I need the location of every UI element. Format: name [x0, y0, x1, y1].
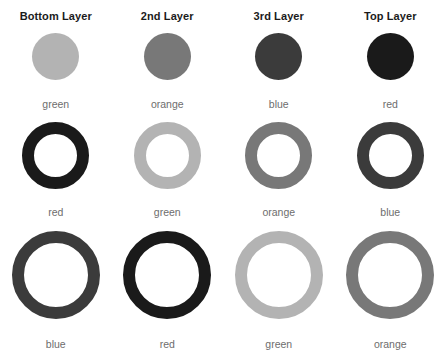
- column-header-top-layer: Top Layer: [335, 9, 446, 27]
- shape-label: red: [383, 98, 398, 110]
- shape-slot: [245, 120, 312, 191]
- shape-slot: [357, 120, 424, 191]
- shape-slot: [22, 120, 89, 191]
- column-header-2nd-layer: 2nd Layer: [112, 9, 224, 27]
- shape-label: red: [160, 338, 175, 350]
- shape-slot: [123, 228, 211, 321]
- shape-label: blue: [46, 338, 66, 350]
- shape-cell: green: [0, 28, 112, 116]
- ring-shape: [134, 122, 201, 189]
- shape-row-3: blue red green orange: [0, 228, 446, 352]
- shape-cell: green: [223, 228, 335, 352]
- shape-cell: red: [112, 228, 224, 352]
- shape-slot: [346, 228, 434, 321]
- shape-cell: red: [0, 120, 112, 218]
- column-header-row: Bottom Layer 2nd Layer 3rd Layer Top Lay…: [0, 9, 446, 27]
- shape-slot: [134, 120, 201, 191]
- shape-cell: green: [112, 120, 224, 218]
- shape-slot: [255, 28, 302, 84]
- shape-label: orange: [262, 206, 295, 218]
- shape-label: red: [48, 206, 63, 218]
- ring-shape: [12, 231, 100, 319]
- shape-row-1: green orange blue red: [0, 28, 446, 116]
- column-header-bottom-layer: Bottom Layer: [0, 9, 112, 27]
- shape-cell: blue: [335, 120, 446, 218]
- shape-label: blue: [269, 98, 289, 110]
- shape-row-2: red green orange blue: [0, 120, 446, 218]
- ring-shape: [346, 231, 434, 319]
- ring-shape: [245, 122, 312, 189]
- ring-shape: [357, 122, 424, 189]
- shape-label: green: [154, 206, 181, 218]
- disc-shape: [144, 33, 191, 80]
- shape-cell: orange: [112, 28, 224, 116]
- shape-slot: [367, 28, 414, 84]
- shape-label: green: [265, 338, 292, 350]
- shape-cell: blue: [0, 228, 112, 352]
- shape-slot: [32, 28, 79, 84]
- ring-shape: [235, 231, 323, 319]
- shape-cell: red: [335, 28, 446, 116]
- ring-shape: [123, 231, 211, 319]
- shape-cell: blue: [223, 28, 335, 116]
- shape-label: blue: [380, 206, 400, 218]
- shape-label: orange: [151, 98, 184, 110]
- column-header-3rd-layer: 3rd Layer: [223, 9, 335, 27]
- shape-cell: orange: [335, 228, 446, 352]
- shape-label: green: [42, 98, 69, 110]
- shape-slot: [144, 28, 191, 84]
- layer-color-figure: Bottom Layer 2nd Layer 3rd Layer Top Lay…: [0, 0, 446, 355]
- shape-cell: orange: [223, 120, 335, 218]
- shape-slot: [12, 228, 100, 321]
- shape-slot: [235, 228, 323, 321]
- shape-label: orange: [374, 338, 407, 350]
- disc-shape: [32, 33, 79, 80]
- ring-shape: [22, 122, 89, 189]
- disc-shape: [367, 33, 414, 80]
- disc-shape: [255, 33, 302, 80]
